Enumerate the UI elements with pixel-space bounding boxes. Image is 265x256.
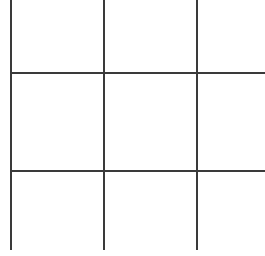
canvas-background — [0, 0, 265, 256]
grid-canvas — [0, 0, 265, 256]
grid-drawing — [0, 0, 265, 256]
